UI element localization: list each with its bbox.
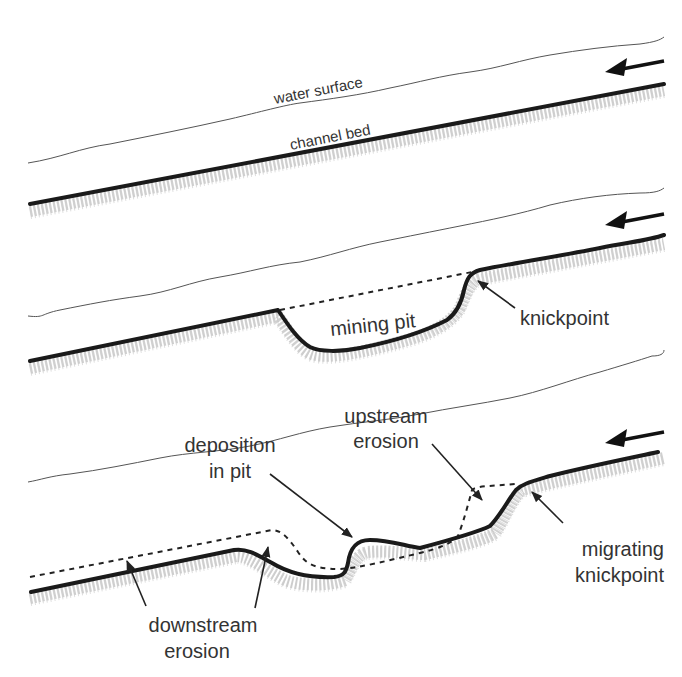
knickpoint-leader-arrow [478,281,515,308]
water-surface-label: water surface [271,73,364,107]
upstream-erosion-leader-arrow [432,444,482,500]
sediment-texture [30,458,664,598]
migrating-knickpoint-label-line2: knickpoint [575,564,664,586]
migrating-knickpoint-label-line1: migrating [582,538,664,560]
downstream-erosion-label-line2: erosion [164,640,230,662]
upstream-erosion-label-line1: upstream [344,405,427,427]
panel-2: mining pit knickpoint [28,188,664,370]
panel-1: water surface channel bed [28,37,664,213]
channel-bed-line [30,84,664,204]
original-bed-dashed-line [280,272,472,310]
sediment-texture [30,90,664,211]
deposition-label-line2: in pit [209,460,252,482]
deposition-label-line1: deposition [184,434,275,456]
downstream-erosion-label-line1: downstream [149,614,258,636]
channel-bed-line [31,452,658,592]
panel-3: deposition in pit upstream erosion migra… [28,350,664,662]
knickpoint-label: knickpoint [520,307,609,329]
flow-arrow-icon [605,58,664,76]
flow-arrow-icon [605,211,664,229]
diagram-canvas: water surface channel bed mining pit kni… [0,0,682,677]
migrating-knickpoint-leader-arrow [532,492,563,523]
flow-arrow-icon [605,429,664,447]
deposition-leader-arrow [270,474,352,537]
upstream-erosion-label-line2: erosion [353,430,419,452]
